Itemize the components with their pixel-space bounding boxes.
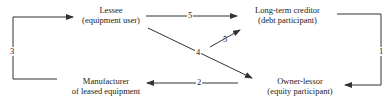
node-manufacturer-subtitle: of leased equipment bbox=[66, 86, 146, 96]
node-creditor-subtitle: (debt participant) bbox=[245, 15, 330, 25]
node-owner-lessor: Owner-lessor (equity participant) bbox=[258, 76, 342, 96]
edge-3-arrow bbox=[13, 17, 73, 79]
node-lessee: Lessee (equipment user) bbox=[78, 5, 144, 25]
edge-label-5-diagonal: 5 bbox=[222, 35, 228, 44]
edge-label-2: 2 bbox=[196, 78, 202, 87]
node-owner-subtitle: (equity participant) bbox=[258, 86, 342, 96]
node-creditor-title: Long-term creditor bbox=[245, 5, 330, 15]
edge-label-4: 4 bbox=[195, 48, 201, 57]
node-owner-title: Owner-lessor bbox=[258, 76, 342, 86]
node-manufacturer-title: Manufacturer bbox=[66, 76, 146, 86]
node-lessee-title: Lessee bbox=[78, 5, 144, 15]
node-long-term-creditor: Long-term creditor (debt participant) bbox=[245, 5, 330, 25]
node-lessee-subtitle: (equipment user) bbox=[78, 15, 144, 25]
edge-label-3: 3 bbox=[9, 47, 15, 56]
leasing-flow-diagram: Lessee (equipment user) Long-term credit… bbox=[0, 0, 392, 100]
edge-label-1: 1 bbox=[378, 47, 384, 56]
node-manufacturer: Manufacturer of leased equipment bbox=[66, 76, 146, 96]
edge-label-5-top: 5 bbox=[187, 11, 193, 20]
edge-1-arrow bbox=[337, 14, 381, 85]
